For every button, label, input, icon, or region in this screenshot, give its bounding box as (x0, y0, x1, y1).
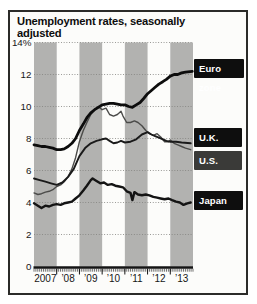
x-tick-label: ’12 (152, 273, 166, 284)
year-band-2007 (34, 43, 57, 267)
y-tick-label: 14% (12, 37, 32, 48)
legend-us: U.S. (194, 151, 242, 170)
unemployment-chart-figure: Unemployment rates, seasonally adjusted … (0, 0, 257, 304)
y-tick-label: 4 (26, 197, 32, 208)
x-tick-label: ’10 (107, 273, 121, 284)
x-tick-label: 2007 (34, 273, 57, 284)
x-tick-label: ’09 (84, 273, 98, 284)
series-line-euro-zone (34, 71, 192, 149)
series-line-u-k (34, 132, 191, 185)
x-tick-label: ’08 (61, 273, 75, 284)
year-band-2011 (125, 43, 148, 267)
y-tick-label: 12 (21, 69, 32, 80)
y-tick-label: 2 (26, 229, 31, 240)
series-line-japan (34, 179, 191, 209)
x-tick-label: ’11 (130, 273, 143, 284)
y-tick-label: 10 (21, 101, 32, 112)
year-band-2009 (79, 43, 102, 267)
legend-japan: Japan (194, 191, 243, 210)
legend-euro-zone: Euro zone (194, 59, 244, 78)
y-tick-label: 6 (26, 165, 32, 176)
y-tick-label: 8 (26, 133, 32, 144)
x-tick-label: ’13 (175, 273, 189, 284)
y-tick-label: 0 (26, 261, 32, 272)
legend-uk: U.K. (194, 128, 242, 147)
